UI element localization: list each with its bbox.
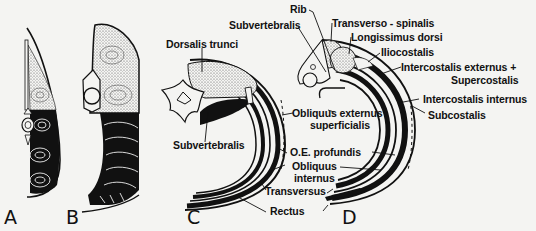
label-oe-profundis: O.E. profundis	[290, 147, 361, 158]
label-c-subvertebralis: Subvertebralis	[173, 140, 245, 151]
label-subcostalis: Subcostalis	[428, 110, 486, 121]
label-longissimus-dorsi: Longissimus dorsi	[351, 32, 443, 43]
label-iliocostalis: Iliocostalis	[381, 47, 434, 58]
label-transversus: Transversus	[265, 186, 326, 197]
label-obliquus-externus: Obliquus externus	[292, 108, 382, 119]
label-supercostalis: Supercostalis	[451, 75, 519, 86]
label-intercostalis-externus: Intercostalis externus +	[401, 62, 516, 73]
label-obliquus: Obliquus	[292, 161, 337, 172]
panel-b-drawing	[82, 24, 139, 212]
label-internus: internus	[294, 173, 335, 184]
label-dorsalis-trunci: Dorsalis trunci	[166, 39, 238, 50]
label-rectus: Rectus	[270, 206, 304, 217]
label-superficialis: superficialis	[310, 120, 370, 131]
panel-letter-d: D	[342, 207, 357, 227]
panel-letter-a: A	[4, 207, 17, 227]
panel-letter-c: C	[187, 207, 200, 227]
panel-letter-b: B	[66, 207, 79, 227]
panel-a-drawing	[22, 28, 60, 197]
label-rib: Rib	[290, 4, 307, 15]
label-d-subvertebralis: Subvertebralis	[229, 20, 301, 31]
label-transverso-spinalis: Transverso - spinalis	[332, 18, 434, 29]
label-intercostalis-internus: Intercostalis internus	[423, 94, 527, 105]
